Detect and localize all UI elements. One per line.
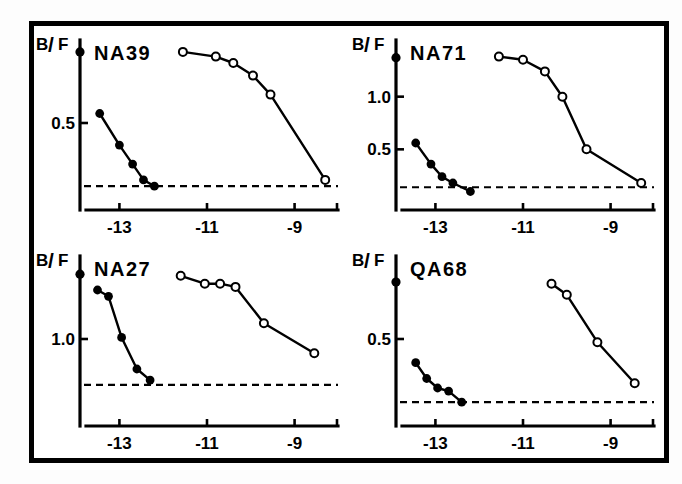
data-point-open: [631, 379, 639, 387]
data-point-filled: [466, 187, 475, 196]
panel-title: QA68: [410, 258, 468, 280]
data-point-filled: [139, 176, 148, 185]
svg-text:F: F: [58, 251, 68, 270]
data-point-filled: [457, 398, 466, 407]
data-point-open: [249, 72, 257, 80]
x-tick-label: -13: [107, 434, 132, 453]
data-point-filled: [95, 109, 104, 118]
y-axis-label: B/F: [36, 33, 68, 56]
data-point-filled: [444, 387, 453, 396]
y-axis-label: B/F: [36, 249, 68, 272]
data-point-filled: [93, 286, 102, 295]
svg-text:/: /: [364, 249, 370, 272]
y-axis-label: B/F: [352, 33, 384, 56]
data-point-open: [177, 272, 185, 280]
svg-text:F: F: [374, 251, 384, 270]
data-point-filled: [128, 160, 137, 169]
y-axis-label: B/F: [352, 249, 384, 272]
figure-root: -13-11-90.5B/FNA39 -13-11-91.00.5B/FNA71…: [0, 0, 682, 484]
x-tick-label: -13: [423, 434, 448, 453]
data-point-filled: [117, 333, 126, 342]
data-point-open: [321, 176, 329, 184]
x-tick-label: -9: [603, 218, 618, 237]
data-point-open: [593, 338, 601, 346]
svg-text:B: B: [36, 251, 48, 270]
panel-title: NA27: [94, 258, 151, 280]
data-point-open: [229, 59, 237, 67]
svg-text:B: B: [352, 35, 364, 54]
data-point-open: [583, 145, 591, 153]
x-tick-label: -13: [107, 218, 132, 237]
panel-qa68: -13-11-90.5B/FQA68: [350, 242, 664, 456]
data-point-filled: [427, 160, 436, 169]
data-point-open: [216, 280, 224, 288]
data-point-open: [637, 179, 645, 187]
data-point-filled: [115, 141, 124, 150]
axis-origin-marker: [391, 53, 400, 62]
data-point-open: [558, 93, 566, 101]
data-point-open: [201, 280, 209, 288]
svg-text:F: F: [58, 35, 68, 54]
svg-text:B: B: [352, 251, 364, 270]
svg-text:/: /: [48, 33, 54, 56]
data-point-filled: [150, 182, 159, 191]
figure-frame: -13-11-90.5B/FNA39 -13-11-91.00.5B/FNA71…: [29, 21, 669, 463]
data-point-open: [212, 53, 220, 61]
data-point-open: [260, 319, 268, 327]
svg-text:/: /: [364, 33, 370, 56]
data-point-filled: [411, 358, 420, 367]
series-line-open: [499, 57, 641, 183]
svg-text:B: B: [36, 35, 48, 54]
panel-title: NA39: [94, 42, 151, 64]
data-point-filled: [133, 365, 142, 374]
series-line-filled: [416, 363, 462, 403]
data-point-open: [541, 67, 549, 75]
data-point-filled: [449, 179, 458, 188]
y-tick-label: 0.5: [51, 114, 75, 133]
panel-na71: -13-11-91.00.5B/FNA71: [350, 26, 664, 240]
x-tick-label: -11: [195, 434, 219, 453]
data-point-open: [310, 349, 318, 357]
panel-title: NA71: [410, 42, 467, 64]
y-tick-label: 0.5: [367, 140, 391, 159]
x-tick-label: -13: [423, 218, 448, 237]
data-point-filled: [146, 376, 155, 385]
axis-origin-marker: [75, 47, 84, 56]
axis-origin-marker: [391, 278, 400, 287]
panel-na39: -13-11-90.5B/FNA39: [34, 26, 348, 240]
x-tick-label: -11: [195, 218, 219, 237]
data-point-filled: [104, 292, 113, 301]
x-tick-label: -9: [603, 434, 618, 453]
data-point-open: [548, 280, 556, 288]
x-tick-label: -11: [511, 218, 535, 237]
series-line-open: [181, 276, 315, 353]
data-point-open: [495, 53, 503, 61]
y-tick-label: 0.5: [367, 330, 391, 349]
y-tick-label: 1.0: [367, 88, 391, 107]
data-point-open: [267, 91, 275, 99]
data-point-open: [179, 48, 187, 56]
data-point-filled: [422, 374, 431, 383]
x-tick-label: -9: [287, 218, 302, 237]
data-point-filled: [438, 172, 447, 181]
svg-text:/: /: [48, 249, 54, 272]
x-tick-label: -11: [511, 434, 535, 453]
data-point-open: [563, 291, 571, 299]
axis-origin-marker: [75, 270, 84, 279]
data-point-open: [232, 283, 240, 291]
series-line-filled: [416, 143, 471, 192]
svg-text:F: F: [374, 35, 384, 54]
data-point-filled: [433, 384, 442, 393]
data-point-open: [519, 56, 527, 64]
x-tick-label: -9: [287, 434, 302, 453]
panel-na27: -13-11-91.0B/FNA27: [34, 242, 348, 456]
data-point-filled: [411, 139, 420, 148]
series-line-filled: [100, 114, 155, 187]
y-tick-label: 1.0: [51, 330, 75, 349]
